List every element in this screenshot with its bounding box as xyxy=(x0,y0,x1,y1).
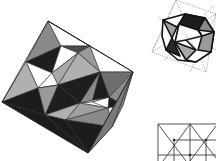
diagram-canvas xyxy=(0,0,216,161)
cuboctahedron-figure xyxy=(152,0,216,72)
main-polyhedron xyxy=(2,21,133,153)
triangulated-grid xyxy=(158,124,216,161)
